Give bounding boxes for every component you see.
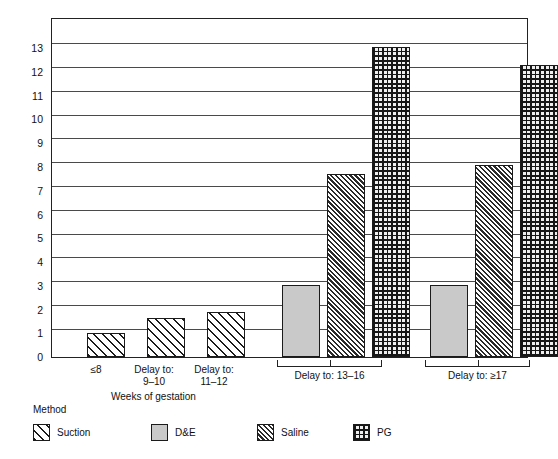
xcat-label-11-12: Delay to: 11–12	[176, 364, 252, 387]
bar-saline-ge17	[475, 165, 513, 357]
group-bracket-ge17	[425, 360, 530, 367]
gridline-4	[52, 257, 527, 258]
legend-label-de: D&E	[175, 428, 196, 438]
plot-area	[51, 18, 528, 358]
bar-pg-ge17	[520, 65, 558, 357]
gridline-12	[52, 67, 527, 68]
ytick-label-0: 0	[17, 352, 43, 363]
bar-pg-13-16	[372, 47, 410, 357]
legend-swatch-suction-icon	[33, 424, 50, 441]
gridline-9	[52, 138, 527, 139]
bar-de-13-16	[282, 285, 320, 357]
ytick-label-5: 5	[17, 233, 43, 244]
legend-label-pg: PG	[377, 428, 391, 438]
gridline-7	[52, 186, 527, 187]
bar-suction-11-12	[207, 312, 245, 357]
gridline-5	[52, 234, 527, 235]
page-bleed-artifact	[0, 448, 537, 458]
ytick-label-10: 10	[17, 114, 43, 125]
bar-de-ge17	[430, 285, 468, 357]
ytick-label-6: 6	[17, 210, 43, 221]
gridline-13	[52, 43, 527, 44]
ytick-label-12: 12	[17, 67, 43, 78]
legend-item-de: D&E	[151, 424, 196, 441]
legend-swatch-de-icon	[151, 424, 168, 441]
legend-title: Method	[33, 404, 66, 415]
legend-item-saline: Saline	[257, 424, 309, 441]
ytick-label-1: 1	[17, 328, 43, 339]
legend-swatch-pg-icon	[353, 424, 370, 441]
legend-label-saline: Saline	[281, 428, 309, 438]
bar-suction-le8	[87, 333, 125, 357]
group-bracket-13-16	[277, 360, 382, 367]
gridline-10	[52, 115, 527, 116]
gridline-8	[52, 162, 527, 163]
gridline-3	[52, 281, 527, 282]
ytick-label-3: 3	[17, 281, 43, 292]
legend-item-suction: Suction	[33, 424, 90, 441]
group-label-ge17: Delay to: ≥17	[400, 370, 555, 382]
ytick-label-8: 8	[17, 162, 43, 173]
group-label-13-16: Delay to: 13–16	[252, 370, 407, 382]
legend-swatch-saline-icon	[257, 424, 274, 441]
bar-saline-13-16	[327, 174, 365, 357]
ytick-label-13: 13	[17, 43, 43, 54]
legend-label-suction: Suction	[57, 428, 90, 438]
ytick-label-9: 9	[17, 138, 43, 149]
ytick-label-4: 4	[17, 257, 43, 268]
x-axis-title: Weeks of gestation	[111, 391, 196, 402]
ytick-label-7: 7	[17, 186, 43, 197]
gridline-11	[52, 91, 527, 92]
legend-item-pg: PG	[353, 424, 391, 441]
bar-suction-9-10	[147, 318, 185, 357]
ytick-label-2: 2	[17, 305, 43, 316]
ytick-label-11: 11	[17, 91, 43, 102]
gridline-6	[52, 210, 527, 211]
